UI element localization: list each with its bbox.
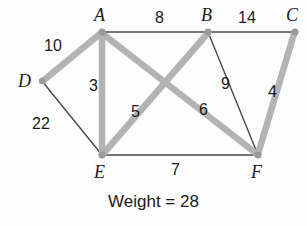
edge-weight-C-F: 4 (268, 84, 277, 100)
edge-weight-A-B: 8 (155, 10, 164, 26)
node-label-C: C (286, 6, 298, 24)
graph-figure: A B C D E F 8 14 10 22 3 5 6 9 4 7 Weigh… (0, 0, 307, 226)
edge-weight-A-E: 3 (89, 78, 98, 94)
node-label-A: A (94, 6, 105, 24)
vertex-B[interactable] (204, 28, 211, 35)
vertex-D[interactable] (39, 78, 45, 84)
figure-caption: Weight = 28 (0, 192, 307, 212)
highlighted-edges (44, 33, 294, 154)
edge-weight-B-E: 5 (131, 104, 140, 120)
edge-weight-E-F: 7 (171, 162, 180, 178)
edge-weight-D-A: 10 (44, 38, 62, 54)
edge-weight-B-C: 14 (238, 10, 256, 26)
node-label-B: B (201, 6, 212, 24)
vertex-A[interactable] (98, 28, 105, 35)
edge-weight-A-F: 6 (199, 102, 208, 118)
vertex-C[interactable] (291, 28, 298, 35)
edge-weight-D-E: 22 (32, 116, 50, 132)
node-label-D: D (18, 72, 31, 90)
vertex-E[interactable] (98, 151, 105, 158)
edge-B-E-highlighted (103, 34, 207, 154)
node-label-E: E (94, 163, 105, 181)
node-label-F: F (251, 163, 262, 181)
vertex-F[interactable] (254, 151, 261, 158)
edge-weight-B-F: 9 (221, 76, 230, 92)
